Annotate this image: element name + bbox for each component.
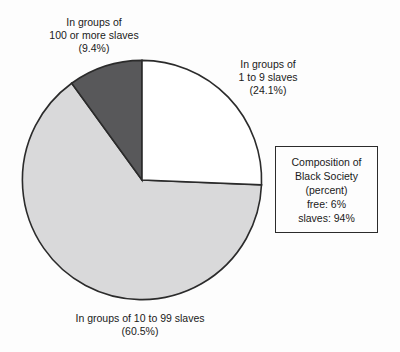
label-large-groups-line1: In groups of bbox=[14, 16, 174, 29]
label-small-groups-percent: (24.1%) bbox=[208, 84, 328, 97]
label-mid-groups: In groups of 10 to 99 slaves (60.5%) bbox=[30, 312, 250, 338]
label-mid-groups-percent: (60.5%) bbox=[30, 325, 250, 338]
legend-line-slaves: slaves: 94% bbox=[298, 211, 355, 225]
label-large-groups: In groups of 100 or more slaves (9.4%) bbox=[14, 16, 174, 55]
composition-legend-box: Composition of Black Society (percent) f… bbox=[275, 146, 378, 233]
label-large-groups-percent: (9.4%) bbox=[14, 42, 174, 55]
legend-line-3: (percent) bbox=[305, 183, 347, 197]
label-small-groups: In groups of 1 to 9 slaves (24.1%) bbox=[208, 58, 328, 97]
label-large-groups-line2: 100 or more slaves bbox=[14, 29, 174, 42]
pie-chart-figure: In groups of 100 or more slaves (9.4%) I… bbox=[0, 0, 400, 352]
label-small-groups-line1: In groups of bbox=[208, 58, 328, 71]
legend-line-2: Black Society bbox=[295, 169, 358, 183]
legend-line-free: free: 6% bbox=[307, 197, 346, 211]
label-mid-groups-line1: In groups of 10 to 99 slaves bbox=[30, 312, 250, 325]
legend-line-1: Composition of bbox=[291, 155, 361, 169]
label-small-groups-line2: 1 to 9 slaves bbox=[208, 71, 328, 84]
